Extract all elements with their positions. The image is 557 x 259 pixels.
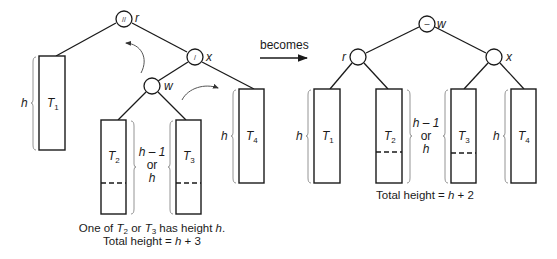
edge-x-t4 [500,63,524,89]
caption-before: One of T2 or T3 has height h. Total heig… [79,222,225,247]
node-label: x [205,50,213,64]
height-brace [131,121,136,214]
caption-after: Total height = h + 2 [376,189,474,201]
height-brace [407,90,412,183]
height-label: h [221,129,228,143]
node-label: w [437,17,447,31]
svg-text:h: h [149,171,156,185]
height-brace [168,121,173,214]
rotation-arrow-icon [182,86,218,100]
edge-w-r [366,27,419,53]
svg-text:Total height = h + 3: Total height = h + 3 [103,235,201,247]
edge-x-t4 [202,62,254,89]
node-w-after: – w [419,16,447,32]
subtree-t4-before: h T4 [221,89,264,183]
avl-double-rotation-diagram: // r / x w h T1 T2 [0,0,557,259]
node-x-before: / x [187,49,213,65]
edge-r-t1 [56,23,116,56]
balance-factor: / [194,54,196,61]
subtree-t3-before: T3 [168,120,201,214]
height-brace [503,90,508,183]
subtree-t1-after: h T1 [296,89,340,183]
node-label: w [164,79,174,93]
becomes-transition: becomes [260,38,309,58]
svg-text:or: or [147,158,158,172]
subtree-t4-after: h T4 [493,89,536,183]
subtree-t2-before: T2 [101,120,136,214]
edge-w-t3 [158,92,186,120]
middle-height-label-after: h – 1 or h [413,116,440,156]
before-tree: // r / x w h T1 T2 [21,11,264,247]
edge-r-x [132,23,187,52]
edge-r-t2 [364,63,388,89]
svg-text:h – 1: h – 1 [413,116,440,130]
node-r-after: r [342,49,366,65]
node-r-before: // r [116,11,140,27]
balance-factor: // [122,16,126,23]
svg-text:or: or [421,129,432,143]
height-brace [306,90,311,183]
height-brace [443,90,448,183]
node-label: x [505,50,513,64]
edge-w-t2 [118,92,146,120]
edge-x-w [158,62,188,81]
edge-r-t1 [330,63,352,89]
edge-x-t3 [464,63,488,89]
rotation-arrow-icon [126,43,144,73]
height-brace [231,90,236,183]
node-label: r [135,11,140,25]
middle-height-label-before: h – 1 or h [139,145,166,185]
node-label: r [342,50,347,64]
subtree-t2-after: T2 [376,89,412,183]
height-label: h [21,96,28,110]
height-brace [31,57,36,150]
height-label: h [493,129,500,143]
after-tree: – w r x h T1 T2 h – 1 or h [296,16,536,201]
node-x-after: x [486,49,513,65]
balance-factor: – [424,19,429,29]
subtree-t3-after: T3 [443,89,476,183]
becomes-label: becomes [260,38,309,52]
svg-text:One of T2 or T3 has height h.: One of T2 or T3 has height h. [79,222,225,236]
height-label: h [296,129,303,143]
svg-text:h – 1: h – 1 [139,145,166,159]
svg-text:Total height = h + 2: Total height = h + 2 [376,189,474,201]
svg-text:h: h [423,142,430,156]
subtree-t1-before: h T1 [21,56,65,150]
